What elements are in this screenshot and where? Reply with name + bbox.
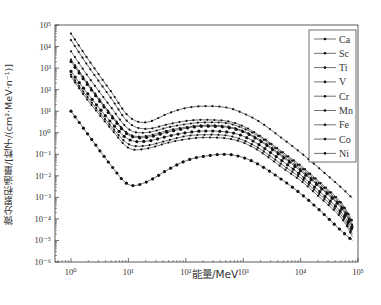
y-tick-label: 10⁵ bbox=[40, 20, 52, 30]
svg-text:Ca: Ca bbox=[339, 34, 351, 45]
x-tick-label: 10⁰ bbox=[65, 267, 78, 277]
svg-text:Mn: Mn bbox=[339, 105, 353, 116]
x-tick-label: 10⁴ bbox=[295, 267, 307, 277]
y-tick-label: 10³ bbox=[40, 63, 52, 73]
y-tick-label: 10⁻⁵ bbox=[35, 235, 52, 245]
y-tick-label: 10² bbox=[40, 85, 52, 95]
svg-text:Ti: Ti bbox=[339, 62, 348, 73]
y-tick-label: 10⁻¹ bbox=[35, 149, 52, 159]
x-tick-label: 10⁵ bbox=[352, 267, 364, 277]
y-tick-label: 10⁻⁴ bbox=[35, 214, 52, 224]
legend: CaScTiVCrMnFeCoNi bbox=[309, 30, 356, 162]
y-tick-label: 10⁻² bbox=[35, 171, 52, 181]
y-axis-label: 微分累积通量/[粒子/(cm²·MeV·n⁻¹)] bbox=[2, 40, 18, 250]
x-tick-label: 10¹ bbox=[123, 267, 135, 277]
svg-text:Sc: Sc bbox=[339, 48, 350, 59]
y-tick-label: 10⁻⁶ bbox=[35, 257, 52, 267]
y-tick-label: 10⁴ bbox=[40, 42, 52, 52]
chart-canvas: 10⁻⁶10⁻⁵10⁻⁴10⁻³10⁻²10⁻¹10⁰10¹10²10³10⁴1… bbox=[0, 0, 381, 305]
y-tick-label: 10¹ bbox=[40, 106, 52, 116]
svg-text:Cr: Cr bbox=[339, 91, 350, 102]
y-tick-label: 10⁻³ bbox=[35, 192, 52, 202]
svg-text:Fe: Fe bbox=[339, 119, 350, 130]
svg-text:Co: Co bbox=[339, 134, 351, 145]
x-axis-label: 能量/MeV bbox=[150, 266, 280, 281]
svg-text:Ni: Ni bbox=[339, 148, 349, 159]
y-tick-label: 10⁰ bbox=[39, 128, 52, 138]
svg-text:V: V bbox=[339, 76, 347, 87]
